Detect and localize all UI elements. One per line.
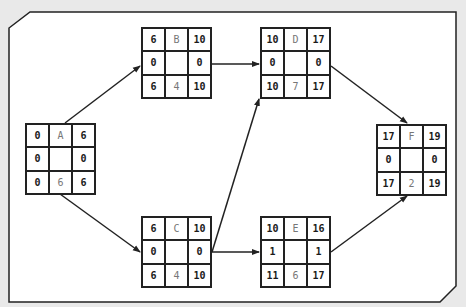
center-blank bbox=[400, 148, 423, 171]
slack-right: 0 bbox=[307, 51, 330, 74]
slack-left: 0 bbox=[142, 240, 165, 263]
activity-node-c: 6 C 10 0 0 6 4 10 bbox=[141, 216, 212, 288]
activity-node-b: 6 B 10 0 0 6 4 10 bbox=[141, 27, 212, 99]
latest-start: 11 bbox=[261, 264, 284, 287]
arrow-a-to-b bbox=[65, 66, 140, 123]
duration: 2 bbox=[400, 172, 423, 195]
earliest-start: 10 bbox=[261, 28, 284, 51]
activity-node-e: 10 E 16 1 1 11 6 17 bbox=[260, 216, 331, 288]
earliest-finish: 10 bbox=[188, 217, 211, 240]
slack-left: 0 bbox=[261, 51, 284, 74]
activity-label: E bbox=[284, 217, 307, 240]
latest-finish: 17 bbox=[307, 264, 330, 287]
arrow-e-to-f bbox=[331, 196, 407, 252]
earliest-finish: 17 bbox=[307, 28, 330, 51]
latest-start: 0 bbox=[26, 171, 49, 194]
duration: 4 bbox=[165, 75, 188, 98]
latest-start: 17 bbox=[377, 172, 400, 195]
slack-right: 0 bbox=[188, 240, 211, 263]
latest-finish: 10 bbox=[188, 75, 211, 98]
latest-start: 6 bbox=[142, 75, 165, 98]
arrow-d-to-f bbox=[331, 66, 407, 123]
slack-right: 0 bbox=[188, 51, 211, 74]
network-diagram: 0 A 6 0 0 0 6 6 6 B 10 0 0 6 4 10 6 C 10… bbox=[0, 0, 466, 307]
center-blank bbox=[284, 51, 307, 74]
duration: 7 bbox=[284, 75, 307, 98]
earliest-start: 6 bbox=[142, 217, 165, 240]
slack-right: 1 bbox=[307, 240, 330, 263]
earliest-start: 0 bbox=[26, 124, 49, 147]
earliest-finish: 16 bbox=[307, 217, 330, 240]
activity-label: D bbox=[284, 28, 307, 51]
earliest-start: 10 bbox=[261, 217, 284, 240]
slack-left: 0 bbox=[377, 148, 400, 171]
earliest-start: 17 bbox=[377, 125, 400, 148]
slack-left: 1 bbox=[261, 240, 284, 263]
earliest-start: 6 bbox=[142, 28, 165, 51]
activity-label: F bbox=[400, 125, 423, 148]
slack-left: 0 bbox=[142, 51, 165, 74]
center-blank bbox=[284, 240, 307, 263]
slack-left: 0 bbox=[26, 147, 49, 170]
activity-node-a: 0 A 6 0 0 0 6 6 bbox=[25, 123, 96, 195]
activity-label: A bbox=[49, 124, 72, 147]
slack-right: 0 bbox=[72, 147, 95, 170]
duration: 6 bbox=[49, 171, 72, 194]
latest-finish: 10 bbox=[188, 264, 211, 287]
arrow-a-to-c bbox=[60, 194, 140, 252]
activity-node-d: 10 D 17 0 0 10 7 17 bbox=[260, 27, 331, 99]
earliest-finish: 10 bbox=[188, 28, 211, 51]
latest-finish: 19 bbox=[423, 172, 446, 195]
center-blank bbox=[165, 240, 188, 263]
center-blank bbox=[49, 147, 72, 170]
slack-right: 0 bbox=[423, 148, 446, 171]
latest-start: 10 bbox=[261, 75, 284, 98]
activity-label: C bbox=[165, 217, 188, 240]
earliest-finish: 19 bbox=[423, 125, 446, 148]
activity-node-f: 17 F 19 0 0 17 2 19 bbox=[376, 124, 447, 196]
arrow-c-to-d bbox=[212, 99, 259, 252]
latest-finish: 6 bbox=[72, 171, 95, 194]
latest-finish: 17 bbox=[307, 75, 330, 98]
activity-label: B bbox=[165, 28, 188, 51]
duration: 6 bbox=[284, 264, 307, 287]
latest-start: 6 bbox=[142, 264, 165, 287]
duration: 4 bbox=[165, 264, 188, 287]
earliest-finish: 6 bbox=[72, 124, 95, 147]
center-blank bbox=[165, 51, 188, 74]
